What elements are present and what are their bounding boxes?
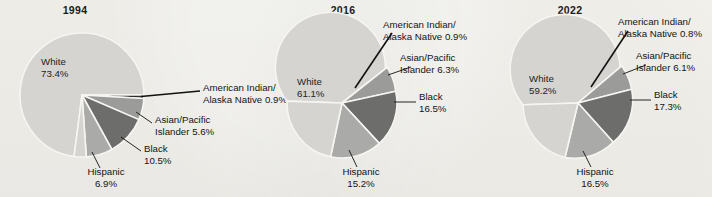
slice-label-hispanic-2022: Hispanic 16.5% [564, 166, 626, 189]
label-black-name: Black [654, 89, 681, 101]
slice-label-asian-pacific-2022: Asian/Pacific Islander 6.1% [636, 50, 695, 73]
label-black-value: 17.3% [654, 101, 681, 113]
label-api-line1: Asian/Pacific [636, 50, 695, 62]
label-hispanic-value: 16.5% [564, 178, 626, 190]
label-api-line2: Islander 6.1% [636, 62, 695, 74]
slice-label-black-2022: Black 17.3% [654, 89, 681, 112]
label-white-name: White [529, 73, 556, 85]
label-white-value: 59.2% [529, 85, 556, 97]
slice-label-white-2022: White 59.2% [529, 73, 556, 96]
slice-label-american-indian-2022: American Indian/ Alaska Native 0.8% [618, 16, 702, 39]
label-ai-line1: American Indian/ [618, 16, 702, 28]
label-ai-line2: Alaska Native 0.8% [618, 28, 702, 40]
label-hispanic-name: Hispanic [564, 166, 626, 178]
